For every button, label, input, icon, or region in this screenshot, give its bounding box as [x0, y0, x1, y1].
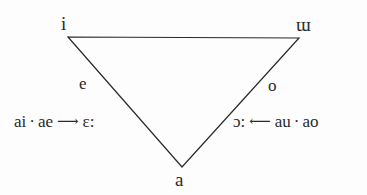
vowel-label-turned-m: ɯ [296, 15, 311, 34]
rule-left-result: ɛ: [83, 113, 95, 130]
diphthong-rule-left: ai·ae⟶ɛ: [14, 113, 94, 130]
diphthong-rule-right: ɔ:⟵au·ao [233, 113, 319, 130]
rule-right-result: ɔ: [233, 113, 245, 130]
triangle-outline [68, 37, 299, 167]
rule-right-source-1: au [275, 113, 291, 130]
rule-left-source-2: ae [38, 113, 53, 130]
arrow-left-icon: ⟵ [245, 114, 275, 129]
vowel-label-o: o [268, 77, 277, 94]
vowel-label-a: a [175, 170, 183, 189]
rule-left-separator: · [26, 113, 38, 130]
vowel-triangle-shape [0, 0, 367, 195]
vowel-triangle-figure: i ɯ a e o ai·ae⟶ɛ: ɔ:⟵au·ao [0, 0, 367, 195]
rule-left-source-1: ai [14, 113, 26, 130]
vowel-label-e: e [79, 75, 87, 92]
rule-right-separator: · [291, 113, 303, 130]
vowel-label-i: i [61, 14, 66, 33]
rule-right-source-2: ao [303, 113, 319, 130]
arrow-right-icon: ⟶ [53, 114, 83, 129]
